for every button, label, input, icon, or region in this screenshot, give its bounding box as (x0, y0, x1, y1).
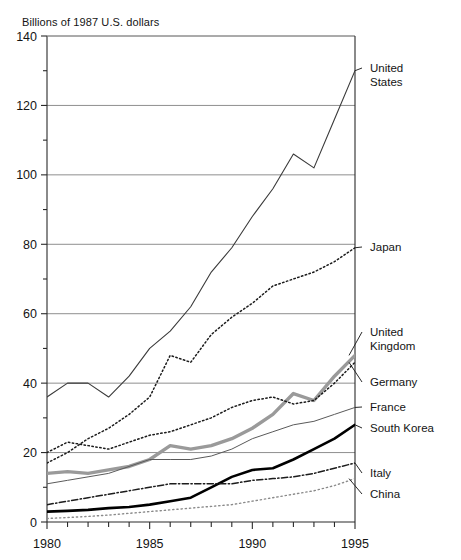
ytick-label: 0 (30, 516, 37, 530)
ytick-label: 40 (23, 377, 37, 391)
legend-label-south-korea: South Korea (370, 422, 435, 434)
ytick-label: 80 (23, 238, 37, 252)
legend-label-germany: Germany (370, 376, 418, 388)
ytick-label: 120 (16, 99, 37, 113)
legend-label-united-states: United (370, 62, 403, 74)
legend-label-united-kingdom-line2: Kingdom (370, 340, 415, 352)
series-line-japan (47, 248, 355, 463)
chart-root: Billions of 1987 U.S. dollars 0204060801… (0, 0, 461, 560)
xtick-label: 1995 (341, 537, 369, 551)
ytick-label: 60 (23, 307, 37, 321)
xtick-label: 1990 (238, 537, 266, 551)
series-line-china (47, 479, 355, 519)
ytick-label: 100 (16, 168, 37, 182)
xtick-label: 1980 (33, 537, 61, 551)
legend-leader-italy (355, 463, 362, 473)
legend-label-united-kingdom: United (370, 326, 403, 338)
xtick-label: 1985 (136, 537, 164, 551)
ytick-label: 140 (16, 30, 37, 44)
legend-leader-united-states (355, 68, 362, 71)
legend-label-france: France (370, 401, 406, 413)
line-chart: 0204060801001201401980198519901995United… (0, 0, 461, 560)
ytick-label: 20 (23, 446, 37, 460)
series-line-germany (47, 362, 355, 452)
series-line-italy (47, 463, 355, 505)
legend-label-united-states-line2: States (370, 76, 403, 88)
legend-label-japan: Japan (370, 241, 401, 253)
legend-leader-japan (355, 247, 362, 248)
series-line-south-korea (47, 425, 355, 512)
legend-label-italy: Italy (370, 467, 391, 479)
series-line-united-kingdom (47, 355, 355, 473)
legend-label-china: China (370, 488, 401, 500)
legend-leader-south-korea (355, 425, 362, 428)
